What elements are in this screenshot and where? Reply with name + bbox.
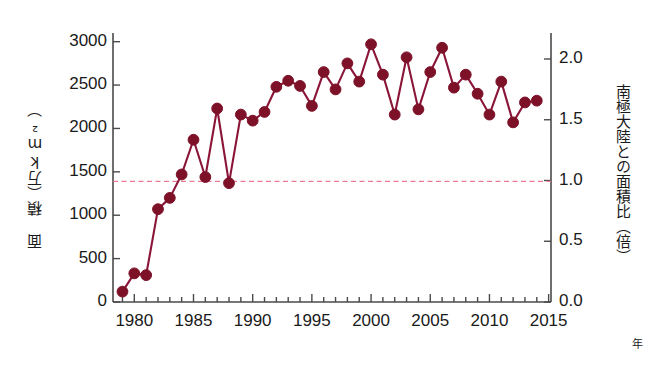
data-point-marker [295,81,306,92]
data-point-marker [460,69,471,80]
plot-area [0,0,659,369]
data-point-marker [176,169,187,180]
data-point-marker [306,100,317,111]
data-point-marker [235,109,246,120]
chart-figure: 面 積（万km²） 南極大陸との面積比（倍） 年 050010001500200… [0,0,659,369]
axes-spines [113,33,551,302]
data-point-marker [259,107,270,118]
data-point-marker [425,67,436,78]
data-point-marker [283,75,294,86]
data-point-marker [413,104,424,115]
data-point-marker [401,52,412,63]
data-point-marker [164,192,175,203]
data-point-marker [437,42,448,53]
data-point-marker [449,82,460,93]
data-point-marker [117,286,128,297]
data-point-marker [389,109,400,120]
data-point-marker [129,268,140,279]
data-point-marker [212,103,223,114]
data-point-marker [318,67,329,78]
data-point-marker [472,88,483,99]
data-point-marker [342,58,353,69]
data-point-marker [141,270,152,281]
data-point-marker [188,134,199,145]
data-point-marker [271,81,282,92]
data-point-marker [520,97,531,108]
data-point-marker [153,204,164,215]
data-point-marker [484,109,495,120]
ozone-hole-area-line [122,44,536,291]
data-point-marker [247,115,258,126]
data-point-marker [378,69,389,80]
data-line [122,44,536,291]
data-point-marker [354,76,365,87]
data-point-marker [224,178,235,189]
data-point-marker [330,84,341,95]
data-point-marker [366,39,377,50]
data-point-marker [496,76,507,87]
data-point-markers [117,39,542,297]
data-point-marker [531,95,542,106]
data-point-marker [508,117,519,128]
data-point-marker [200,172,211,183]
